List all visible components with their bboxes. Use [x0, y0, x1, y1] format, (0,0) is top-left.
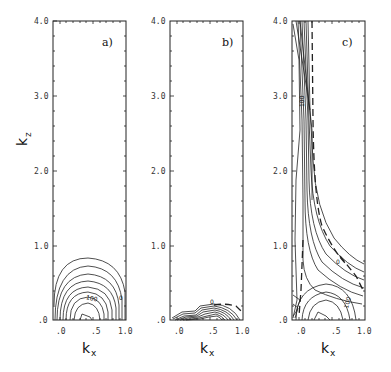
panel-a-y-ticks [53, 21, 126, 320]
c-y-tick-4: 4.0 [273, 17, 288, 26]
y-tick-3: 3.0 [34, 92, 49, 101]
svg-text:100: 100 [85, 293, 98, 302]
y-axis-label: k z [14, 132, 33, 146]
b-x-tick-0: .0 [174, 327, 184, 336]
svg-text:k: k [200, 340, 209, 356]
contour-figure: k z 4.0 3.0 2.0 1.0 .0 .0 .5 1.0 k x [0, 0, 391, 372]
svg-text:0: 0 [336, 258, 340, 265]
panel-b-contours: 0 [172, 298, 242, 320]
b-y-tick-4: 4.0 [151, 17, 166, 26]
c-y-tick-2: 2.0 [273, 167, 288, 176]
b-y-tick-3: 3.0 [151, 92, 166, 101]
panel-c-contours: 100 0 100 [293, 21, 364, 320]
panel-c-label: c) [342, 36, 352, 49]
svg-text:x: x [91, 348, 97, 358]
c-x-tick-0.5: .5 [331, 327, 341, 336]
x-tick-0.5: .5 [91, 327, 101, 336]
panel-a-label: a) [102, 36, 113, 49]
svg-text:100: 100 [342, 296, 352, 309]
svg-text:k: k [82, 340, 91, 356]
c-y-tick-3: 3.0 [273, 92, 288, 101]
c-x-tick-0: .0 [296, 327, 306, 336]
panel-b-label: b) [222, 36, 233, 49]
c-y-tick-1: 1.0 [273, 242, 288, 251]
panel-a-contours: 100 0 [54, 258, 125, 320]
panel-a-frame [53, 21, 126, 320]
svg-text:k: k [14, 137, 30, 146]
svg-text:x: x [209, 348, 215, 358]
c-x-tick-1: 1.0 [357, 327, 372, 336]
y-tick-4: 4.0 [34, 17, 49, 26]
c-y-tick-0: .0 [278, 316, 288, 325]
b-x-axis-label: k x [200, 340, 215, 358]
panel-b: 4.0 3.0 2.0 1.0 .0 .0 .5 1.0 k x b) 0 [151, 17, 250, 358]
y-tick-2: 2.0 [34, 167, 49, 176]
panel-c: 4.0 3.0 2.0 1.0 .0 .0 .5 1.0 k x c) [273, 17, 372, 358]
b-x-tick-0.5: .5 [208, 327, 218, 336]
panel-b-ticks [170, 21, 243, 320]
panel-b-frame [170, 21, 243, 320]
svg-text:0: 0 [119, 294, 123, 301]
svg-text:0: 0 [210, 298, 214, 305]
svg-text:100: 100 [298, 95, 305, 107]
svg-text:x: x [330, 348, 336, 358]
x-tick-0: .0 [56, 327, 66, 336]
b-y-tick-0: .0 [156, 316, 166, 325]
b-y-tick-1: 1.0 [151, 242, 166, 251]
y-tick-1: 1.0 [34, 242, 49, 251]
b-x-tick-1: 1.0 [235, 327, 250, 336]
x-tick-1: 1.0 [118, 327, 133, 336]
c-x-axis-label: k x [321, 340, 336, 358]
b-y-tick-2: 2.0 [151, 167, 166, 176]
x-axis-label: k x [82, 340, 97, 358]
panel-a: 4.0 3.0 2.0 1.0 .0 .0 .5 1.0 k x a) 100 … [34, 17, 133, 358]
svg-text:z: z [23, 132, 33, 137]
y-tick-0: .0 [38, 316, 48, 325]
svg-text:k: k [321, 340, 330, 356]
